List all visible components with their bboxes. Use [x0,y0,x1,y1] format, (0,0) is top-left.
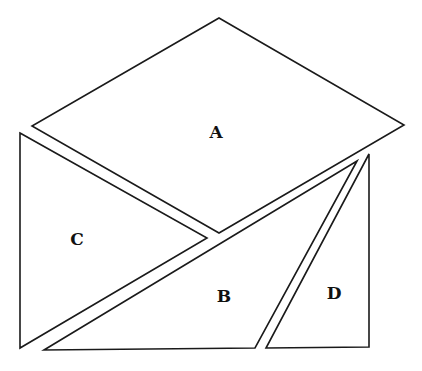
tangram-diagram: A C B D [0,0,422,371]
shape-a-label: A [208,122,223,142]
shape-b-label: B [217,286,231,306]
shape-d-label: D [327,283,342,303]
shape-c-label: C [70,229,84,249]
